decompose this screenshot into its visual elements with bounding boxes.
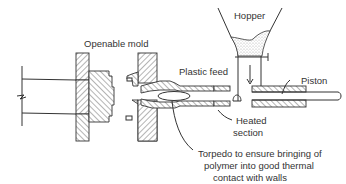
label-heated-section-1: Heated (236, 115, 267, 126)
label-heated-section-2: section (233, 127, 263, 138)
plastic-granules (231, 31, 270, 56)
label-hopper: Hopper (234, 10, 265, 21)
label-torpedo-3: contact with walls (213, 172, 287, 183)
break-symbol (17, 95, 26, 99)
openable-mold-left-half (76, 53, 114, 141)
openable-mold-right-half (126, 53, 157, 141)
label-plastic-feed: Plastic feed (179, 66, 228, 77)
label-piston: Piston (301, 75, 327, 86)
label-torpedo-1: Torpedo to ensure bringing of (198, 148, 322, 159)
label-openable-mold: Openable mold (84, 38, 148, 49)
heating-cylinder (214, 86, 306, 107)
heated-section-leader (218, 110, 232, 120)
machine-frame (17, 66, 76, 126)
label-torpedo-2: polymer into good thermal (204, 160, 314, 171)
plastic-charge (233, 95, 241, 101)
injection-molding-diagram: Openable mold Hopper Plastic feed Piston… (0, 0, 346, 184)
piston (252, 92, 341, 100)
torpedo (158, 92, 190, 101)
